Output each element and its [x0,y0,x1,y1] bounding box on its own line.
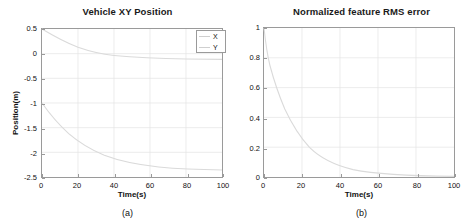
panel-b-xaxis-label: Time(s) [263,190,455,199]
panel-a-xtick-label-2: 40 [110,181,118,190]
legend-item-x[interactable]: X [197,31,225,42]
panel-b-ytick-label-0: 1 [240,23,260,32]
panel-a-plot-area [42,29,222,177]
panel-a-xtick-label-0: 0 [39,181,43,190]
panel-b-xtick-80 [418,174,419,177]
panel-a-ytick-2 [42,79,45,80]
legend-swatch-y-icon [199,47,210,48]
panel-b-caption: (b) [238,208,475,218]
series-rms-line [264,28,454,176]
panel-b: Normalized feature RMS error [238,0,475,222]
panel-a-ytick-1 [42,54,45,55]
panel-b-ytick-5 [264,178,267,179]
panel-b-xtick-label-3: 60 [374,181,382,190]
panel-a-xtick-label-5: 100 [217,181,230,190]
panel-a-ytick-3 [42,104,45,105]
panel-a-ytick-label-6: -2.5 [14,173,37,182]
panel-a-xtick-label-3: 60 [146,181,154,190]
panel-a-legend[interactable]: X Y [196,30,226,53]
panel-a-ytick-label-1: 0 [17,49,37,58]
panel-b-title: Normalized feature RMS error [238,6,475,17]
panel-b-xtick-label-0: 0 [261,181,265,190]
panel-b-ytick-2 [264,88,267,89]
panel-b-ytick-4 [264,149,267,150]
panel-b-ytick-label-3: 0.4 [238,114,260,123]
panel-a-ytick-label-5: -2 [14,149,37,158]
panel-b-ytick-label-1: 0.8 [238,53,260,62]
panel-b-xtick-label-4: 80 [413,181,421,190]
panel-a-ytick-label-0: 0.5 [17,24,37,33]
panel-a-ytick-0 [42,29,45,30]
panel-b-gridlines [264,28,454,177]
panel-a-xtick-40 [115,174,116,177]
figure-container: Vehicle XY Position [0,0,475,222]
series-x-line [42,29,222,59]
panel-b-ytick-label-4: 0.2 [238,144,260,153]
panel-b-ytick-label-2: 0.6 [238,83,260,92]
panel-b-xtick-40 [341,174,342,177]
panel-b-xtick-label-2: 40 [336,181,344,190]
legend-swatch-x-icon [199,36,210,37]
panel-a-xtick-label-4: 80 [183,181,191,190]
panel-a-ytick-4 [42,129,45,130]
panel-a-xtick-20 [78,174,79,177]
panel-a-xtick-80 [188,174,189,177]
panel-a-xtick-100 [223,174,224,177]
panel-b-xtick-100 [455,174,456,177]
panel-b-ytick-1 [264,58,267,59]
panel-b-ytick-0 [264,28,267,29]
legend-label-y: Y [213,44,218,51]
panel-a: Vehicle XY Position [0,0,237,222]
panel-a-xtick-0 [42,174,43,177]
panel-b-plot-area [264,28,454,177]
panel-b-xtick-label-5: 100 [448,181,461,190]
panel-b-ytick-label-5: 0 [240,173,260,182]
panel-a-ytick-label-2: -0.5 [14,74,37,83]
panel-b-xtick-60 [379,174,380,177]
panel-b-xtick-label-1: 20 [297,181,305,190]
panel-b-xtick-20 [302,174,303,177]
panel-a-xaxis-label: Time(s) [41,190,223,199]
legend-item-y[interactable]: Y [197,42,225,53]
panel-a-title: Vehicle XY Position [0,6,237,17]
series-y-line [42,103,222,170]
panel-a-xtick-label-1: 20 [73,181,81,190]
panel-b-ytick-3 [264,119,267,120]
panel-a-ytick-6 [42,178,45,179]
panel-b-xtick-0 [264,174,265,177]
panel-a-caption: (a) [0,208,237,218]
legend-label-x: X [213,33,218,40]
panel-a-yaxis-label: Position(m) [11,91,20,135]
panel-b-axes [263,27,455,178]
panel-a-ytick-5 [42,154,45,155]
panel-a-xtick-60 [151,174,152,177]
panel-a-gridlines [42,29,222,177]
